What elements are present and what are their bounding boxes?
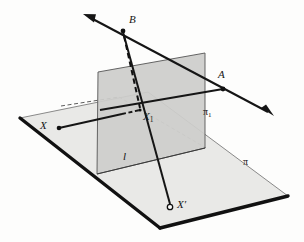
label-point-a: A <box>218 69 225 80</box>
label-point-x1: X1 <box>143 111 153 124</box>
ray-AB-arrowhead-start <box>83 14 96 23</box>
label-line-l: l <box>123 151 126 162</box>
geometry-figure: B A X X1 X′ l π π1 <box>0 0 304 242</box>
label-plane-pi1: π1 <box>203 107 212 119</box>
point-B <box>121 29 126 34</box>
label-point-x1-subscript: 1 <box>150 115 154 124</box>
label-point-x: X <box>40 120 47 131</box>
label-plane-pi: π <box>243 157 248 167</box>
label-plane-pi1-subscript: 1 <box>208 111 212 119</box>
label-point-x1-base: X <box>143 110 150 122</box>
point-X1 <box>138 108 141 111</box>
point-X-prime <box>167 204 172 209</box>
label-point-b: B <box>129 14 136 25</box>
label-point-x-prime: X′ <box>177 199 186 210</box>
point-A <box>221 87 226 92</box>
point-X <box>57 126 62 131</box>
